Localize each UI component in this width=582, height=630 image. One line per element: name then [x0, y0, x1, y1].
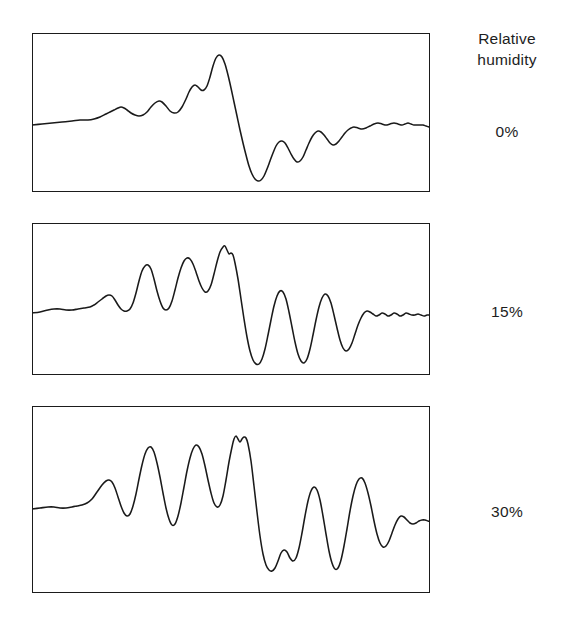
- figure-root: Relative humidity 0% 15% 30%: [0, 0, 582, 630]
- humidity-label-0pct: 0%: [444, 123, 570, 141]
- legend-title: Relative humidity: [444, 28, 570, 70]
- spectrum-panel-0pct: [32, 33, 430, 192]
- legend-column: Relative humidity 0% 15% 30%: [444, 0, 582, 630]
- spectrum-trace-30pct: [32, 436, 430, 571]
- humidity-label-30pct: 30%: [444, 503, 570, 521]
- spectrum-plot-15pct: [32, 223, 430, 375]
- spectrum-trace-15pct: [32, 246, 429, 365]
- legend-title-line1: Relative: [444, 28, 570, 49]
- humidity-label-15pct: 15%: [444, 303, 570, 321]
- spectrum-panel-15pct: [32, 223, 430, 375]
- spectrum-panel-30pct: [32, 406, 430, 593]
- spectrum-plot-0pct: [32, 33, 430, 192]
- spectrum-trace-0pct: [32, 55, 429, 181]
- legend-title-line2: humidity: [444, 49, 570, 70]
- spectrum-plot-30pct: [32, 406, 430, 593]
